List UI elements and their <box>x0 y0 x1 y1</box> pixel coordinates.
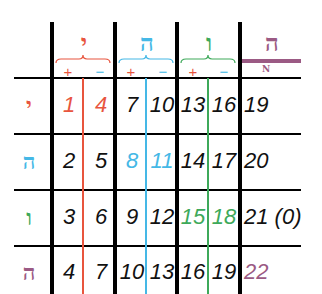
cell: 4 <box>86 94 116 116</box>
cell: 17 <box>209 150 239 172</box>
cell: 18 <box>209 206 239 228</box>
cell: 1 <box>54 94 84 116</box>
cell: 21 (0) <box>244 206 322 228</box>
minus-sign: − <box>214 64 234 79</box>
cell: 19 <box>244 94 304 116</box>
cell: 13 <box>147 261 177 283</box>
cell: 7 <box>86 261 116 283</box>
column-header-he: ה <box>117 28 177 57</box>
row-divider <box>14 189 301 191</box>
cell: 2 <box>54 150 84 172</box>
cell: 7 <box>117 94 147 116</box>
cell: 3 <box>54 206 84 228</box>
row-divider <box>14 133 301 135</box>
cell: 10 <box>147 94 177 116</box>
row-header-he: ה <box>14 148 44 175</box>
cell: 16 <box>178 261 208 283</box>
row-header-yod: י <box>14 92 44 119</box>
cell: 12 <box>147 206 177 228</box>
plus-sign: + <box>183 64 203 79</box>
cell: 5 <box>86 150 116 172</box>
cell: 10 <box>117 261 147 283</box>
cell: 11 <box>147 150 177 172</box>
cell: 8 <box>117 150 147 172</box>
cell: 19 <box>209 261 239 283</box>
cell: 6 <box>86 206 116 228</box>
cell: 9 <box>117 206 147 228</box>
cell: 22 <box>244 261 304 283</box>
column-header-he-final: ה <box>242 28 302 57</box>
cell: 16 <box>209 94 239 116</box>
column-header-yod: י <box>54 28 114 57</box>
cell: 14 <box>178 150 208 172</box>
cell: 15 <box>178 206 208 228</box>
row-header-he-final: ה <box>14 259 44 286</box>
minus-sign: − <box>90 64 110 79</box>
n-label: N <box>262 64 270 74</box>
row-header-vav: ו <box>14 204 44 231</box>
cell: 4 <box>54 261 84 283</box>
column-header-vav: ו <box>179 28 239 57</box>
minus-sign: − <box>153 64 173 79</box>
cell: 13 <box>178 94 208 116</box>
plus-sign: + <box>58 64 78 79</box>
cell: 20 <box>244 150 304 172</box>
purple-bar <box>242 59 301 63</box>
plus-sign: + <box>121 64 141 79</box>
row-divider <box>14 245 301 247</box>
